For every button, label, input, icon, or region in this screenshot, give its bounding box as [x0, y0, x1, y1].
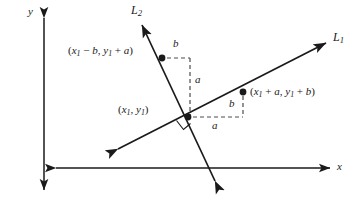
dot-intersection: [185, 114, 192, 121]
y-axis-label: y: [28, 6, 33, 17]
point-label-on-L2: (x1 − b, y1 + a): [68, 45, 133, 58]
dot-point-on-L1: [240, 89, 247, 96]
dot-point-on-L2: [159, 55, 166, 62]
point-label-on-L1: (x1 + a, y1 + b): [250, 86, 315, 99]
dim-label-a-vertical: a: [195, 74, 201, 85]
diagram-canvas: [0, 0, 360, 202]
line-label-L1: L1: [333, 31, 344, 45]
point-label-intersection: (x1, y1): [118, 104, 149, 117]
right-angle-marker: [177, 121, 191, 130]
geometry-figure: y x L2 L1 (x1 − b, y1 + a) (x1, y1) (x1 …: [0, 0, 360, 202]
dim-label-b-lower: b: [229, 98, 235, 109]
line-label-L2: L2: [131, 4, 142, 18]
dim-label-a-horizontal: a: [212, 120, 218, 131]
dim-label-b-upper: b: [173, 38, 179, 49]
x-axis-label: x: [337, 161, 342, 172]
